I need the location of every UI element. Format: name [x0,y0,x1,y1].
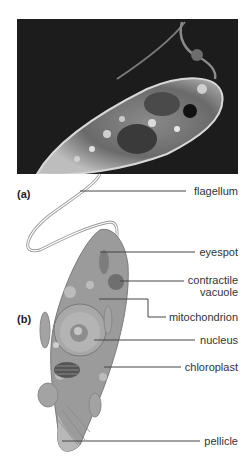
label-contractile-vacuole-line2: vacuole [188,286,238,298]
label-contractile-vacuole: contractile vacuole [188,274,238,298]
label-pellicle: pellicle [204,435,238,447]
label-chloroplast: chloroplast [185,361,238,373]
label-mitochondrion: mitochondrion [169,311,238,323]
label-contractile-vacuole-line1: contractile [188,274,238,286]
label-nucleus: nucleus [200,334,238,346]
label-eyespot: eyespot [199,246,238,258]
label-flagellum: flagellum [194,185,238,197]
euglena-illustration [0,0,249,459]
